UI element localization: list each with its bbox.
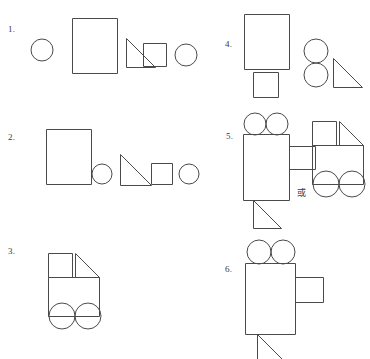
item5-or-separator: 或 <box>297 189 306 198</box>
item2-rectangle <box>46 129 92 185</box>
item2-right-triangle <box>120 154 152 186</box>
item4-circle-1 <box>303 38 329 64</box>
item1-rectangle <box>72 18 118 74</box>
item5-truck-figure <box>310 119 370 205</box>
item1-square <box>143 43 167 67</box>
item4-circle-2 <box>303 62 329 88</box>
item2-square <box>151 163 173 185</box>
item4-right-triangle <box>333 58 363 88</box>
item4-square <box>253 72 279 98</box>
item6-camera-figure <box>242 239 334 359</box>
item-number-2: 2. <box>8 133 15 142</box>
item-number-4: 4. <box>225 40 232 49</box>
worksheet-item-2: 2. <box>0 110 185 225</box>
item1-circle-1 <box>30 38 54 62</box>
item3-truck-figure <box>46 251 108 339</box>
worksheet-item-6: 6. <box>185 225 370 348</box>
item4-rectangle <box>244 14 290 70</box>
item-number-5: 5. <box>226 132 233 141</box>
worksheet-item-3: 3. <box>0 225 185 348</box>
item-number-1: 1. <box>8 25 15 34</box>
worksheet-item-1: 1. <box>0 0 185 110</box>
worksheet-item-5: 5. 或 <box>185 110 370 225</box>
worksheet-item-4: 4. <box>185 0 370 110</box>
item2-circle-1 <box>91 163 113 185</box>
item-number-6: 6. <box>225 265 232 274</box>
item-number-3: 3. <box>8 247 15 256</box>
